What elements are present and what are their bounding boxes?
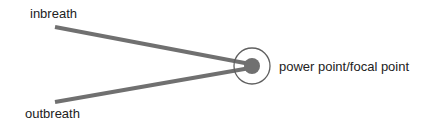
outbreath-label: outbreath: [25, 106, 80, 121]
outbreath-line: [55, 68, 250, 102]
focal-dot: [244, 58, 260, 74]
focal-point-label: power point/focal point: [279, 59, 409, 74]
inbreath-label: inbreath: [30, 6, 77, 21]
inbreath-line: [55, 27, 250, 64]
